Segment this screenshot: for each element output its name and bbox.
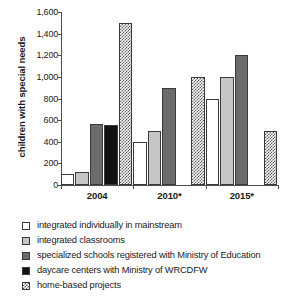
x-axis-tick-labels: 20042010*2015* <box>61 190 278 204</box>
bar <box>61 174 75 185</box>
legend-label: integrated individually in mainstream <box>37 220 182 231</box>
legend-label: daycare centers with Ministry of WRCDFW <box>37 265 207 276</box>
bar <box>104 125 118 185</box>
bar <box>75 172 89 185</box>
x-tick-label: 2015* <box>206 190 278 201</box>
bar-series-container <box>61 12 278 185</box>
y-tick-label: 200 <box>24 159 58 168</box>
y-tick-label: 1,400 <box>24 30 58 39</box>
bar-chart-figure: children with special needs 020040060080… <box>0 0 283 307</box>
bar <box>220 77 234 185</box>
legend-label: specialized schools registered with Mini… <box>37 250 260 261</box>
bar <box>235 55 249 185</box>
y-axis-tick-labels: 02004006008001,0001,2001,4001,600 <box>24 0 58 200</box>
y-tick-label: 400 <box>24 138 58 147</box>
legend-item: home-based projects <box>22 278 280 293</box>
x-tick-mark <box>206 185 207 189</box>
x-tick-label: 2010* <box>133 190 205 201</box>
axes <box>61 12 278 185</box>
legend-item: integrated classrooms <box>22 233 280 248</box>
legend-swatch-icon <box>22 237 30 245</box>
y-tick-label: 800 <box>24 95 58 104</box>
bar <box>191 77 205 185</box>
bar <box>162 88 176 185</box>
bar <box>133 142 147 185</box>
bar <box>90 124 104 185</box>
y-tick-label: 1,000 <box>24 73 58 82</box>
legend-swatch-icon <box>22 282 30 290</box>
legend-item: daycare centers with Ministry of WRCDFW <box>22 263 280 278</box>
y-tick-label: 1,600 <box>24 8 58 17</box>
legend-swatch-icon <box>22 267 30 275</box>
bar <box>206 99 220 186</box>
legend-swatch-icon <box>22 222 30 230</box>
legend-item: integrated individually in mainstream <box>22 218 280 233</box>
x-axis-line <box>61 185 278 186</box>
legend-swatch-icon <box>22 252 30 260</box>
legend-label: home-based projects <box>37 280 121 291</box>
legend-item: specialized schools registered with Mini… <box>22 248 280 263</box>
bar <box>148 131 162 185</box>
y-tick-label: 600 <box>24 116 58 125</box>
plot-area: children with special needs 020040060080… <box>0 0 283 200</box>
y-tick-label: 1,200 <box>24 51 58 60</box>
legend-label: integrated classrooms <box>37 235 125 246</box>
bar <box>119 23 133 185</box>
x-tick-label: 2004 <box>61 190 133 201</box>
chart-legend: integrated individually in mainstreamint… <box>22 218 280 293</box>
y-tick-label: 0 <box>24 181 58 190</box>
x-tick-mark <box>61 185 62 189</box>
x-tick-mark <box>133 185 134 189</box>
x-tick-mark <box>278 185 279 189</box>
bar <box>264 131 278 185</box>
